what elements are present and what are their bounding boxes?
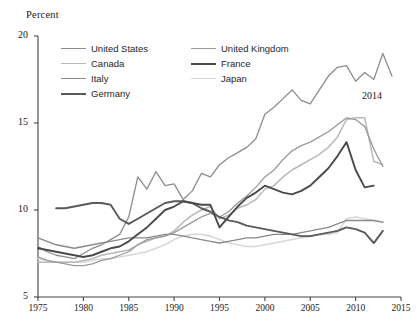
legend-label: United States xyxy=(91,43,148,54)
legend-item-united-kingdom[interactable]: United Kingdom xyxy=(191,41,289,56)
y-tick-label: 10 xyxy=(6,203,28,214)
legend-item-france[interactable]: France xyxy=(191,56,289,71)
y-tick-label: 20 xyxy=(6,29,28,40)
legend-item-italy[interactable]: Italy xyxy=(61,71,148,86)
x-tick-label: 2005 xyxy=(290,303,330,313)
x-tick-label: 1980 xyxy=(63,303,103,313)
legend-swatch-icon xyxy=(61,48,86,49)
legend-swatch-icon xyxy=(191,63,216,65)
series-line-germany xyxy=(56,201,383,243)
x-tick-label: 1990 xyxy=(154,303,194,313)
legend-item-canada[interactable]: Canada xyxy=(61,56,148,71)
legend-left-column: United StatesCanadaItalyGermany xyxy=(61,41,148,101)
y-tick-label: 5 xyxy=(6,290,28,301)
x-tick-label: 1995 xyxy=(200,303,240,313)
series-line-canada xyxy=(38,118,383,262)
x-tick-label: 2015 xyxy=(381,303,420,313)
legend-right-column: United KingdomFranceJapan xyxy=(191,41,289,86)
y-tick-label: 15 xyxy=(6,116,28,127)
legend-swatch-icon xyxy=(191,78,216,79)
x-tick-label: 1985 xyxy=(109,303,149,313)
legend-item-united-states[interactable]: United States xyxy=(61,41,148,56)
legend-label: Italy xyxy=(91,73,108,84)
legend-swatch-icon xyxy=(61,63,86,64)
legend-label: Japan xyxy=(221,73,247,84)
legend-label: France xyxy=(221,58,251,69)
legend-label: Germany xyxy=(91,88,130,99)
unemployment-line-chart: Percent 2014 United StatesCanadaItalyGer… xyxy=(0,0,420,334)
y-axis-title: Percent xyxy=(26,9,59,20)
legend-swatch-icon xyxy=(61,78,86,79)
series-line-united-kingdom xyxy=(38,118,383,266)
x-tick-label: 2010 xyxy=(336,303,376,313)
legend-item-germany[interactable]: Germany xyxy=(61,86,148,101)
legend-label: United Kingdom xyxy=(221,43,289,54)
legend-item-japan[interactable]: Japan xyxy=(191,71,289,86)
legend-label: Canada xyxy=(91,58,124,69)
legend-swatch-icon xyxy=(191,48,216,49)
x-tick-label: 1975 xyxy=(18,303,58,313)
legend-swatch-icon xyxy=(61,93,86,95)
end-year-annotation: 2014 xyxy=(362,90,382,101)
x-tick-label: 2000 xyxy=(245,303,285,313)
